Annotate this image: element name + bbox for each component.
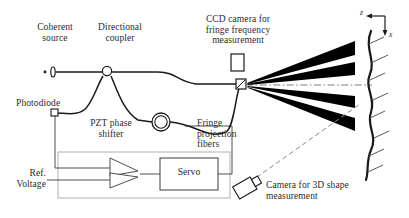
label-camera-3d: Camera for 3D shape measurement: [266, 180, 386, 201]
laser-source-dot-icon: [44, 71, 47, 74]
amplifier-triangle-lower: [110, 173, 138, 188]
laser-source-icon: [51, 67, 55, 77]
label-photodiode: Photodiode: [16, 98, 82, 109]
axis-z-arrowhead: [366, 14, 372, 19]
fiber-coupler-to-pzt: [111, 76, 152, 122]
camera-3d-icon: [233, 173, 263, 199]
label-ref-voltage: Ref. Voltage: [0, 168, 46, 189]
axis-x-arrowhead: [383, 30, 388, 36]
label-servo: Servo: [160, 167, 218, 178]
pzt-ring-inner-icon: [155, 116, 167, 128]
fiber-upper-arm: [112, 72, 238, 84]
directional-coupler-icon: [102, 66, 111, 75]
wavy-target-surface-icon: [366, 31, 373, 180]
ccd-camera-icon: [231, 54, 244, 71]
label-pzt-phase-shifter: PZT phase shifter: [80, 118, 142, 139]
axis-label-x: x: [389, 30, 392, 39]
label-ccd-camera: CCD camera for fringe frequency measurem…: [191, 14, 285, 46]
camera-line-of-sight: [250, 104, 360, 182]
label-coherent-source: Coherent source: [24, 22, 86, 43]
label-fringe-projection-fibers: Fringe projection fibers: [197, 118, 257, 150]
axis-label-z: z: [360, 8, 363, 17]
label-directional-coupler: Directional coupler: [84, 22, 156, 43]
photodiode-icon: [51, 109, 58, 116]
